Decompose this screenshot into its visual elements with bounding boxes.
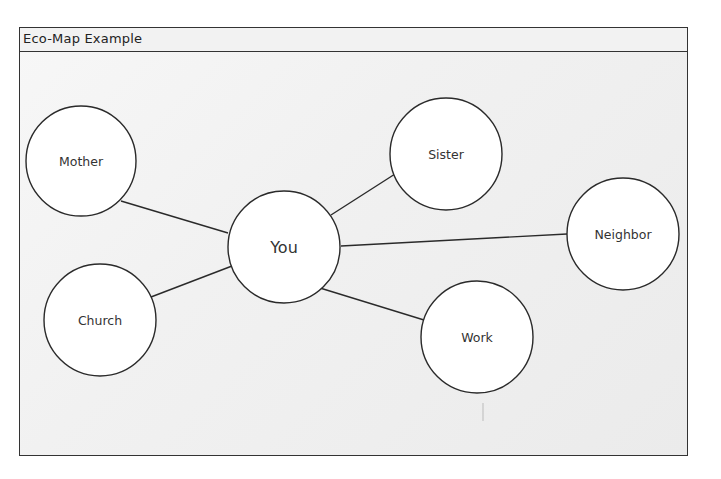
edge-you-work (320, 288, 424, 320)
node-label: You (269, 238, 298, 257)
node-label: Mother (59, 154, 104, 169)
node-you: You (228, 191, 340, 303)
eco-map-diagram: YouMotherSisterNeighborChurchWork (0, 0, 721, 479)
edge-you-mother (121, 201, 228, 233)
node-label: Neighbor (594, 227, 652, 242)
node-label: Church (78, 313, 122, 328)
node-label: Work (461, 330, 493, 345)
node-label: Sister (428, 147, 465, 162)
node-church: Church (44, 264, 156, 376)
edge-you-church (151, 266, 232, 297)
node-work: Work (421, 281, 533, 393)
edge-you-sister (331, 174, 395, 215)
node-mother: Mother (26, 106, 136, 216)
node-neighbor: Neighbor (567, 178, 679, 290)
edge-you-neighbor (341, 234, 567, 246)
node-sister: Sister (390, 98, 502, 210)
